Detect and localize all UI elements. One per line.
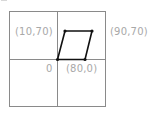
label-top-left-point: (10,70) <box>15 27 53 37</box>
vertex-top-left <box>63 29 66 32</box>
parallelogram-shape <box>58 31 93 60</box>
vertex-top-right <box>90 29 93 32</box>
vertex-bottom-right <box>83 58 86 61</box>
label-bottom-right-point: (80,0) <box>66 64 97 74</box>
label-origin: 0 <box>46 64 53 74</box>
coordinate-diagram <box>0 0 154 113</box>
vertex-origin <box>56 58 59 61</box>
label-top-right-point: (90,70) <box>110 27 148 37</box>
